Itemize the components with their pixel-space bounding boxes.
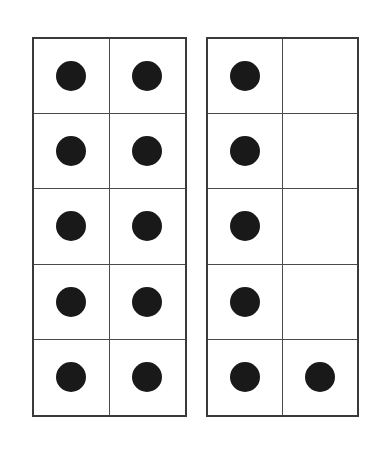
cell-r-r5-c1[interactable]	[208, 340, 283, 415]
cell-r-r3-c2[interactable]	[283, 189, 358, 264]
counter-dot	[230, 136, 260, 166]
cell-l-r2-c2[interactable]	[110, 114, 186, 189]
cell-l-r2-c1[interactable]	[34, 114, 110, 189]
counter-dot	[56, 287, 86, 317]
cell-l-r3-c1[interactable]	[34, 189, 110, 264]
cell-r-r4-c2[interactable]	[283, 265, 358, 340]
counter-dot	[305, 362, 335, 392]
cell-l-r1-c1[interactable]	[34, 39, 110, 114]
cell-r-r5-c2[interactable]	[283, 340, 358, 415]
counter-dot	[132, 211, 162, 241]
cell-l-r4-c2[interactable]	[110, 265, 186, 340]
counter-dot	[56, 61, 86, 91]
counter-dot	[56, 211, 86, 241]
cell-r-r1-c1[interactable]	[208, 39, 283, 114]
cell-r-r4-c1[interactable]	[208, 265, 283, 340]
right-ten-frame	[206, 37, 359, 417]
ten-frame-pair	[0, 0, 377, 451]
counter-dot	[132, 287, 162, 317]
cell-r-r3-c1[interactable]	[208, 189, 283, 264]
counter-dot	[132, 362, 162, 392]
empty-slot	[305, 61, 335, 91]
cell-l-r4-c1[interactable]	[34, 265, 110, 340]
counter-dot	[230, 211, 260, 241]
cell-l-r5-c1[interactable]	[34, 340, 110, 415]
counter-dot	[230, 287, 260, 317]
counter-dot	[230, 61, 260, 91]
empty-slot	[305, 287, 335, 317]
left-ten-frame	[32, 37, 187, 417]
diagram-canvas	[0, 0, 377, 451]
cell-r-r2-c2[interactable]	[283, 114, 358, 189]
counter-dot	[230, 362, 260, 392]
counter-dot	[132, 136, 162, 166]
counter-dot	[56, 362, 86, 392]
counter-dot	[56, 136, 86, 166]
empty-slot	[305, 211, 335, 241]
cell-l-r1-c2[interactable]	[110, 39, 186, 114]
cell-l-r5-c2[interactable]	[110, 340, 186, 415]
cell-r-r1-c2[interactable]	[283, 39, 358, 114]
cell-l-r3-c2[interactable]	[110, 189, 186, 264]
counter-dot	[132, 61, 162, 91]
empty-slot	[305, 136, 335, 166]
cell-r-r2-c1[interactable]	[208, 114, 283, 189]
